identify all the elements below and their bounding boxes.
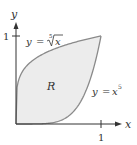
lower-label-y: y <box>91 86 98 97</box>
x-axis-arrow <box>115 122 122 127</box>
y-tick-label: 1 <box>3 31 9 42</box>
region-diagram: x y 1 1 R y = 5 x y = x 5 <box>0 0 137 145</box>
upper-label-radicand: x <box>55 36 61 47</box>
lower-curve-label: y = x 5 <box>91 83 122 97</box>
x-axis-label: x <box>125 118 132 131</box>
upper-curve-label: y = 5 x <box>25 33 63 47</box>
y-axis-arrow <box>14 22 19 29</box>
lower-label-eq: = <box>102 86 110 97</box>
upper-label-y: y <box>25 36 32 47</box>
region-r <box>16 36 101 124</box>
y-axis-label: y <box>10 8 18 21</box>
region-label: R <box>46 80 55 93</box>
upper-label-eq: = <box>36 36 44 47</box>
upper-label-index: 5 <box>49 33 53 39</box>
x-tick-label: 1 <box>98 132 104 143</box>
lower-label-exp: 5 <box>118 83 122 90</box>
